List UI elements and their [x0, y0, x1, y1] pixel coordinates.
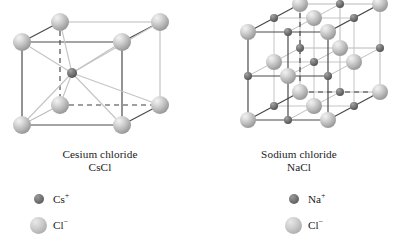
cscl-body-diagonals — [22, 22, 160, 125]
nacl-sodium-ion — [336, 0, 344, 8]
legend-label-sodium: Na+ — [308, 193, 326, 205]
nacl-lattice-diagram — [200, 0, 398, 150]
nacl-sodium-ion — [376, 44, 384, 52]
legend-label-cesium: Cs+ — [53, 193, 69, 205]
nacl-sodium-ion — [310, 58, 318, 66]
nacl-chloride-ion — [306, 10, 322, 26]
nacl-chloride-ion — [372, 84, 388, 100]
nacl-chloride-ion — [280, 68, 296, 84]
panel-sodium-chloride: Sodium chloride NaCl Na+ Cl− — [200, 0, 398, 248]
nacl-chloride-ion — [292, 84, 308, 100]
cscl-back-edges — [60, 22, 160, 105]
legend-symbol-chloride-left: Cl — [53, 219, 64, 231]
nacl-sodium-ion — [350, 102, 358, 110]
nacl-chloride-ion — [292, 0, 308, 12]
cscl-chloride-spheres — [13, 13, 169, 134]
legend-charge-chloride-left: − — [64, 217, 69, 226]
nacl-chloride-ion — [240, 112, 256, 128]
nacl-sodium-ion — [336, 88, 344, 96]
cscl-formula: CsCl — [0, 161, 200, 174]
legend-charge-chloride-right: − — [319, 217, 324, 226]
nacl-sodium-ion — [284, 116, 292, 124]
nacl-sodium-ion — [270, 102, 278, 110]
sphere-small-dark-icon — [34, 194, 44, 204]
caption-sodium-chloride: Sodium chloride NaCl — [200, 148, 398, 173]
nacl-chloride-ion — [240, 24, 256, 40]
legend-row-chloride-right: Cl− — [200, 212, 398, 238]
nacl-chloride-ion — [320, 24, 336, 40]
cscl-depth-edges — [22, 22, 160, 125]
legend-symbol-chloride-right: Cl — [308, 219, 319, 231]
nacl-compound-name: Sodium chloride — [200, 148, 398, 161]
nacl-middle-layer-ions — [266, 10, 362, 114]
legend-row-cesium: Cs+ — [0, 186, 200, 212]
nacl-formula: NaCl — [200, 161, 398, 174]
cscl-compound-name: Cesium chloride — [0, 148, 200, 161]
nacl-sodium-ion — [350, 14, 358, 22]
sphere-large-light-icon — [285, 217, 302, 234]
nacl-chloride-ion — [266, 54, 282, 70]
nacl-sodium-ion — [296, 44, 304, 52]
panel-cesium-chloride: Cesium chloride CsCl Cs+ Cl− — [0, 0, 200, 248]
nacl-sodium-ion — [284, 28, 292, 36]
legend-row-sodium: Na+ — [200, 186, 398, 212]
sphere-small-dark-icon — [289, 194, 299, 204]
nacl-sodium-ion — [270, 14, 278, 22]
cscl-hidden-edges — [60, 22, 160, 105]
nacl-sodium-ion — [244, 72, 252, 80]
cscl-front-edges — [22, 42, 122, 125]
nacl-chloride-ion — [320, 112, 336, 128]
legend-symbol-sodium: Na — [308, 193, 321, 205]
nacl-chloride-ion — [332, 40, 348, 56]
legend-cesium-chloride: Cs+ Cl− — [0, 186, 200, 238]
nacl-chloride-ion — [306, 98, 322, 114]
legend-symbol-cesium: Cs — [53, 193, 65, 205]
legend-charge-sodium: + — [321, 191, 326, 200]
legend-label-chloride-right: Cl− — [308, 219, 323, 231]
nacl-chloride-ion — [372, 0, 388, 12]
legend-row-chloride-left: Cl− — [0, 212, 200, 238]
nacl-chloride-ion — [346, 54, 362, 70]
cscl-lattice-diagram — [0, 0, 200, 150]
sphere-large-light-icon — [30, 217, 47, 234]
legend-charge-cesium: + — [65, 191, 70, 200]
cscl-cesium-center-sphere — [67, 68, 77, 78]
ionic-crystal-structures-figure: Cesium chloride CsCl Cs+ Cl− — [0, 0, 398, 248]
caption-cesium-chloride: Cesium chloride CsCl — [0, 148, 200, 173]
legend-sodium-chloride: Na+ Cl− — [200, 186, 398, 238]
legend-label-chloride-left: Cl− — [53, 219, 68, 231]
nacl-sodium-ion — [324, 72, 332, 80]
